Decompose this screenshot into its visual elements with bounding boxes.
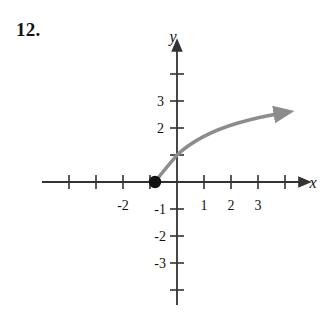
sqrt-curve bbox=[155, 114, 277, 182]
coordinate-graph: -2 1 2 3 3 2 -1 -2 -3 x y bbox=[0, 0, 335, 334]
figure-page: 12. bbox=[0, 0, 335, 334]
y-tick-label--3: -3 bbox=[154, 256, 166, 271]
y-tick-label-3: 3 bbox=[157, 94, 164, 109]
x-axis-label: x bbox=[308, 174, 316, 191]
x-axis bbox=[42, 175, 300, 189]
x-tick-label-1: 1 bbox=[201, 198, 208, 213]
y-axis-label: y bbox=[167, 28, 177, 46]
y-tick-label--2: -2 bbox=[154, 229, 166, 244]
y-axis bbox=[170, 50, 184, 305]
y-tick-label-2: 2 bbox=[157, 121, 164, 136]
x-tick-label-3: 3 bbox=[255, 198, 262, 213]
y-tick-label--1: -1 bbox=[154, 202, 166, 217]
curve-endpoint-dot bbox=[149, 176, 161, 188]
x-tick-label--2: -2 bbox=[117, 198, 129, 213]
x-tick-label-2: 2 bbox=[228, 198, 235, 213]
